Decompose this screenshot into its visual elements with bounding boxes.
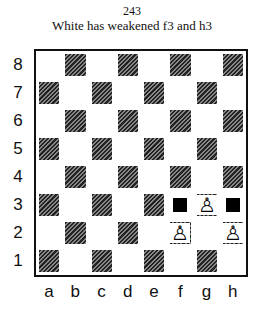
square-h2: ♙: [223, 222, 243, 244]
square-d7: [115, 79, 141, 107]
file-label: c: [89, 282, 115, 302]
square-c2: [89, 219, 115, 247]
square-d3: [115, 191, 141, 219]
square-e4: [141, 163, 167, 191]
square-d8: [118, 54, 138, 76]
square-e8: [141, 51, 167, 79]
square-c4: [89, 163, 115, 191]
square-g6: [194, 107, 220, 135]
white-pawn-icon: ♙: [197, 195, 217, 215]
square-d1: [115, 247, 141, 275]
square-g3: ♙: [197, 194, 217, 216]
diagram-caption: White has weakened f3 and h3: [0, 18, 264, 34]
square-g7: [197, 82, 217, 104]
square-d6: [118, 110, 138, 132]
square-h5: [220, 135, 246, 163]
square-g2: [194, 219, 220, 247]
square-f2: ♙: [170, 222, 190, 244]
square-b3: [62, 191, 88, 219]
rank-label: 3: [8, 195, 28, 215]
square-h4: [223, 166, 243, 188]
square-h6: [223, 110, 243, 132]
chess-board: ♙♙♙: [34, 49, 248, 277]
square-f1: [167, 247, 193, 275]
rank-label: 7: [8, 83, 28, 103]
square-e6: [141, 107, 167, 135]
square-e5: [144, 138, 164, 160]
square-c5: [92, 138, 112, 160]
square-c7: [92, 82, 112, 104]
square-g5: [197, 138, 217, 160]
square-h7: [220, 79, 246, 107]
rank-label: 6: [8, 111, 28, 131]
file-label: g: [194, 282, 220, 302]
square-a1: [39, 250, 59, 272]
square-b4: [65, 166, 85, 188]
square-a4: [36, 163, 62, 191]
diagram-number: 243: [0, 4, 264, 19]
rank-label: 2: [8, 223, 28, 243]
square-b1: [62, 247, 88, 275]
square-g8: [194, 51, 220, 79]
file-label: b: [62, 282, 88, 302]
black-square-marker-icon: [173, 198, 187, 212]
square-h1: [220, 247, 246, 275]
square-a7: [39, 82, 59, 104]
square-a2: [36, 219, 62, 247]
square-f4: [170, 166, 190, 188]
square-g1: [197, 250, 217, 272]
square-f7: [167, 79, 193, 107]
square-a5: [39, 138, 59, 160]
rank-label: 4: [8, 167, 28, 187]
square-e1: [144, 250, 164, 272]
square-e2: [141, 219, 167, 247]
square-b8: [65, 54, 85, 76]
square-h3: [220, 191, 246, 219]
square-c1: [92, 250, 112, 272]
rank-label: 1: [8, 251, 28, 271]
rank-label: 8: [8, 55, 28, 75]
file-label: a: [36, 282, 62, 302]
square-b5: [62, 135, 88, 163]
square-d2: [118, 222, 138, 244]
square-g4: [194, 163, 220, 191]
square-d5: [115, 135, 141, 163]
square-f3: [167, 191, 193, 219]
file-label: f: [167, 282, 193, 302]
square-c3: [92, 194, 112, 216]
file-label: h: [220, 282, 246, 302]
square-a6: [36, 107, 62, 135]
square-a3: [39, 194, 59, 216]
square-e3: [144, 194, 164, 216]
square-b6: [65, 110, 85, 132]
rank-label: 5: [8, 139, 28, 159]
white-pawn-icon: ♙: [170, 223, 190, 243]
square-d4: [118, 166, 138, 188]
square-b7: [62, 79, 88, 107]
square-h8: [223, 54, 243, 76]
square-a8: [36, 51, 62, 79]
square-c8: [89, 51, 115, 79]
square-f8: [170, 54, 190, 76]
black-square-marker-icon: [226, 198, 240, 212]
square-c6: [89, 107, 115, 135]
square-f6: [170, 110, 190, 132]
file-label: d: [115, 282, 141, 302]
square-e7: [144, 82, 164, 104]
square-b2: [65, 222, 85, 244]
file-label: e: [141, 282, 167, 302]
square-f5: [167, 135, 193, 163]
white-pawn-icon: ♙: [223, 223, 243, 243]
